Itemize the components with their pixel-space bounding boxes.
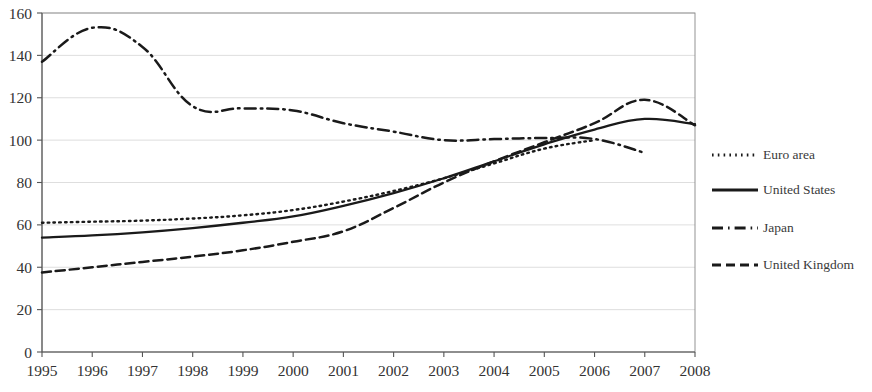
x-tick-label: 2003 — [428, 362, 459, 379]
legend-label: United Kingdom — [763, 257, 855, 272]
y-tick-label: 40 — [17, 259, 33, 276]
x-tick-label: 2004 — [479, 362, 510, 379]
legend-item-united-states[interactable]: United States — [712, 182, 835, 197]
y-tick-label: 0 — [24, 344, 32, 361]
x-tick-label: 2002 — [378, 362, 409, 379]
y-axis: 020406080100120140160 — [9, 5, 42, 361]
legend-label: United States — [763, 182, 835, 197]
x-tick-label: 2005 — [529, 362, 560, 379]
legend-label: Euro area — [763, 147, 815, 162]
x-tick-label: 2001 — [328, 362, 359, 379]
y-tick-label: 80 — [17, 174, 33, 191]
x-tick-label: 1995 — [27, 362, 58, 379]
x-tick-label: 2000 — [278, 362, 309, 379]
y-tick-label: 60 — [17, 216, 33, 233]
x-tick-label: 2006 — [579, 362, 610, 379]
y-tick-label: 160 — [9, 5, 33, 22]
y-tick-label: 20 — [17, 301, 33, 318]
y-tick-label: 120 — [9, 89, 33, 106]
legend-label: Japan — [763, 220, 794, 235]
y-tick-label: 100 — [9, 132, 33, 149]
line-chart: 020406080100120140160 199519961997199819… — [0, 0, 872, 392]
x-axis: 1995199619971998199920002001200220032004… — [27, 352, 711, 379]
x-tick-label: 1999 — [227, 362, 258, 379]
legend-item-united-kingdom[interactable]: United Kingdom — [712, 257, 855, 272]
x-tick-label: 1997 — [127, 362, 158, 379]
legend-item-japan[interactable]: Japan — [712, 220, 794, 235]
y-tick-label: 140 — [9, 47, 33, 64]
x-tick-label: 2008 — [680, 362, 711, 379]
legend-item-euro-area[interactable]: Euro area — [712, 147, 815, 162]
chart-legend: Euro areaUnited StatesJapanUnited Kingdo… — [712, 147, 855, 272]
x-tick-label: 1998 — [177, 362, 208, 379]
x-tick-label: 1996 — [77, 362, 108, 379]
x-tick-label: 2007 — [629, 362, 660, 379]
chart-container: 020406080100120140160 199519961997199819… — [0, 0, 872, 392]
